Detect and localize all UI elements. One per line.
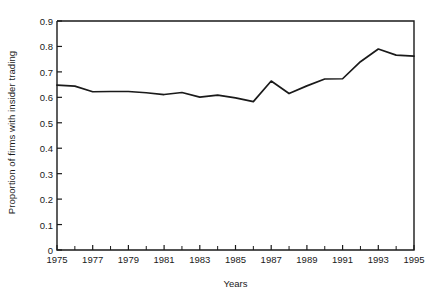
- x-tick-label: 1993: [368, 254, 389, 265]
- x-axis-ticks: [57, 245, 414, 250]
- y-axis-ticks: [57, 21, 62, 250]
- x-tick-label: 1989: [296, 254, 317, 265]
- x-tick-label: 1985: [225, 254, 246, 265]
- x-tick-label: 1977: [82, 254, 103, 265]
- x-tick-label: 1975: [46, 254, 67, 265]
- x-tick-label: 1983: [189, 254, 210, 265]
- x-tick-label: 1979: [118, 254, 139, 265]
- data-series-line: [57, 49, 414, 102]
- x-tick-label: 1995: [403, 254, 424, 265]
- x-tick-label: 1987: [261, 254, 282, 265]
- x-tick-label: 1991: [332, 254, 353, 265]
- x-tick-label: 1981: [154, 254, 175, 265]
- chart-figure: Proportion of firms with insider trading…: [0, 0, 441, 299]
- axis-lines: [57, 21, 414, 250]
